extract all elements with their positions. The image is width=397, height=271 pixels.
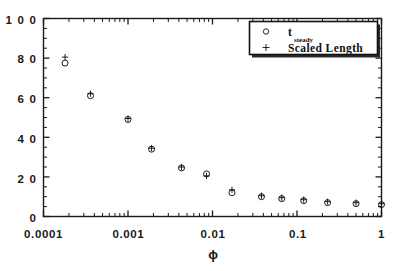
legend-label-t: t (288, 26, 292, 38)
y-tick-label-100: 1 0 0 (5, 14, 37, 26)
y-tick-label-0: 0 (29, 212, 37, 224)
legend: t steady Scaled Length (250, 22, 381, 58)
x-tick-label-001: 0.001 (112, 228, 144, 240)
x-tick-label-1: 0.1 (289, 228, 307, 240)
x-tick-label-01: 0.01 (201, 228, 226, 240)
legend-label-scaled-length: Scaled Length (288, 42, 363, 55)
x-axis-title: ϕ (208, 247, 218, 262)
y-tick-label-40: 4 0 (17, 133, 37, 145)
x-tick-label-one: 1 (378, 228, 385, 240)
y-tick-label-20: 2 0 (17, 173, 37, 185)
y-tick-label-80: 8 0 (17, 53, 37, 65)
y-tick-label-60: 6 0 (17, 93, 37, 105)
figure-canvas: 1 0 0 8 0 6 0 4 0 2 0 0 0.0001 0.001 0.0… (0, 0, 397, 271)
x-tick-label-0001: 0.0001 (24, 228, 63, 240)
